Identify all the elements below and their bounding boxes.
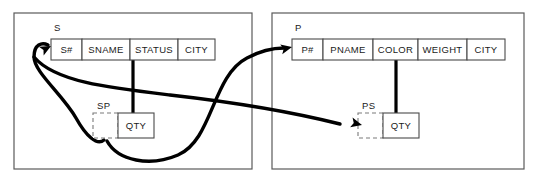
cell-P-P#-label: P# xyxy=(301,44,314,55)
table-label-S: S xyxy=(54,22,61,33)
cell-SP-QTY-label: QTY xyxy=(126,120,147,131)
cell-S-CITY-label: CITY xyxy=(185,44,208,55)
cell-PS-key[interactable] xyxy=(358,113,383,138)
cell-P-CITY-label: CITY xyxy=(475,44,498,55)
s-to-ps-foreign-key xyxy=(34,57,340,124)
cell-P-PNAME-label: PNAME xyxy=(330,44,365,55)
cell-PS-QTY-label: QTY xyxy=(391,120,412,131)
cell-P-WEIGHT-label: WEIGHT xyxy=(423,44,463,55)
panels-group xyxy=(14,13,524,169)
cell-S-SNAME-label: SNAME xyxy=(88,44,123,55)
cell-P-COLOR-label: COLOR xyxy=(378,44,413,55)
connectors-group xyxy=(34,44,396,161)
tables-group: SS#SNAMESTATUSCITYSPQTYPP#PNAMECOLORWEIG… xyxy=(51,22,505,138)
er-diagram: SS#SNAMESTATUSCITYSPQTYPP#PNAMECOLORWEIG… xyxy=(0,0,538,182)
table-P: PP#PNAMECOLORWEIGHTCITY xyxy=(292,22,505,60)
cell-SP-key[interactable] xyxy=(93,113,118,138)
table-label-PS: PS xyxy=(362,100,375,111)
table-SP: SPQTY xyxy=(93,100,154,138)
right-panel xyxy=(272,13,524,169)
table-label-P: P xyxy=(295,22,302,33)
table-S: SS#SNAMESTATUSCITY xyxy=(51,22,215,60)
cell-S-STATUS-label: STATUS xyxy=(135,44,173,55)
table-PS: PSQTY xyxy=(358,100,419,138)
cell-S-S#-label: S# xyxy=(60,44,73,55)
diagram-canvas: SS#SNAMESTATUSCITYSPQTYPP#PNAMECOLORWEIG… xyxy=(0,0,538,182)
table-label-SP: SP xyxy=(97,100,110,111)
